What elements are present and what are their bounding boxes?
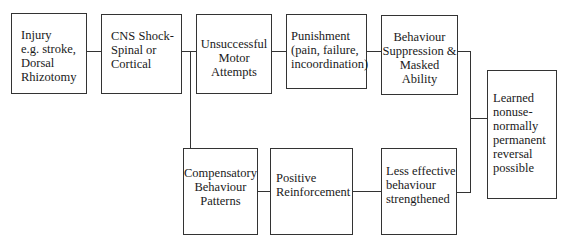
node-learned-nonuse: Learned nonuse- normally permanent rever… [487,70,557,199]
node-compensatory-behaviour: Compensatory Behaviour Patterns [183,148,258,235]
node-suppression-label: Behaviour Suppression & Masked Ability [383,30,457,86]
edge-bracket-vertical [470,51,471,193]
node-injury-label: Injury e.g. stroke, Dorsal Rhizotomy [21,28,77,84]
edge-positive-less-effective [353,191,381,192]
node-compensatory-label: Compensatory Behaviour Patterns [184,166,257,208]
node-cns-shock-label: CNS Shock- Spinal or Cortical [111,29,174,71]
edge-injury-cns [87,51,101,52]
node-injury: Injury e.g. stroke, Dorsal Rhizotomy [11,13,87,94]
node-behaviour-suppression: Behaviour Suppression & Masked Ability [381,15,458,95]
edge-bracket-learned [470,118,487,119]
node-positive-label: Positive Reinforcement [276,171,350,199]
node-learned-nonuse-label: Learned nonuse- normally permanent rever… [493,91,546,175]
node-unsuccessful-label: Unsuccessful Motor Attempts [201,37,268,79]
node-unsuccessful-motor-attempts: Unsuccessful Motor Attempts [196,14,272,94]
edge-unsuccessful-punishment [272,51,286,52]
node-punishment: Punishment (pain, failure, incoordinatio… [286,14,367,89]
node-positive-reinforcement: Positive Reinforcement [270,148,353,235]
node-less-effective-behaviour: Less effective behaviour strengthened [381,148,457,235]
edge-less-effective-bracket [457,192,471,193]
node-less-effective-label: Less effective behaviour strengthened [386,164,456,206]
edge-cns-compensatory [190,51,191,148]
node-punishment-label: Punishment (pain, failure, incoordinatio… [291,29,368,71]
edge-cns-unsuccessful [182,51,196,52]
edge-compensatory-positive [258,191,270,192]
edge-punishment-suppression [367,51,381,52]
node-cns-shock: CNS Shock- Spinal or Cortical [101,14,182,94]
